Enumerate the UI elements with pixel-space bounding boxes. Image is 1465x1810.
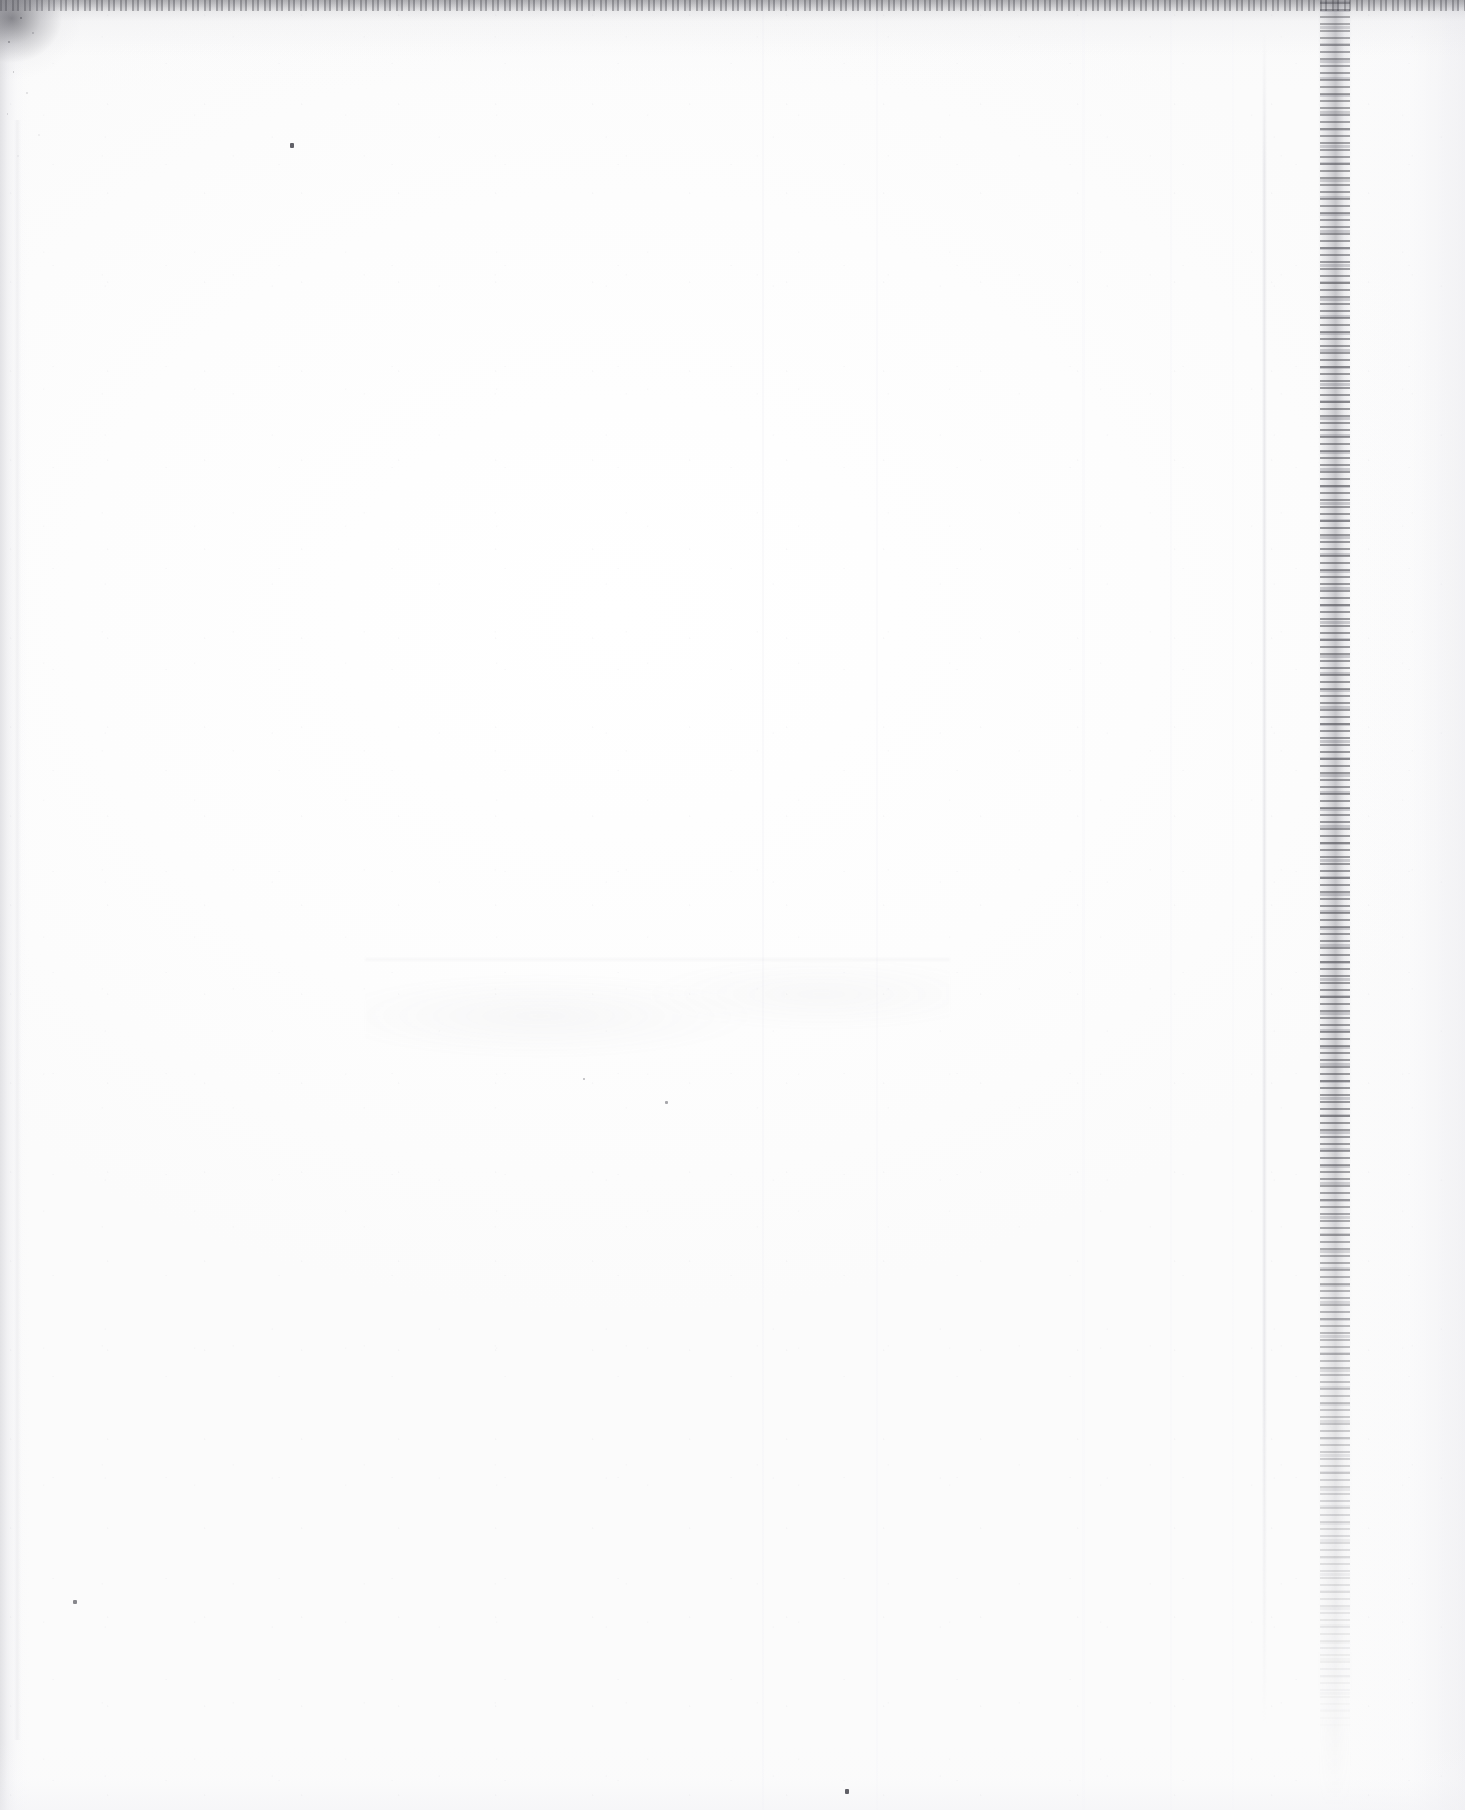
- page-body-region: [120, 190, 1240, 1570]
- left-edge-streak: [14, 120, 21, 1740]
- top-edge-dark-rule: [0, 0, 1465, 11]
- vertical-crease-line: [1262, 30, 1267, 1730]
- top-left-speckle: [0, 0, 150, 300]
- bottom-edge-haze: [0, 1740, 1465, 1810]
- right-edge-speckle: [1320, 0, 1350, 1810]
- scanned-page: [0, 0, 1465, 1810]
